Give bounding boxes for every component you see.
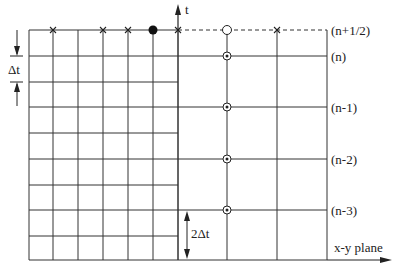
markers: [50, 26, 280, 215]
arrow-up-icon: [184, 211, 190, 221]
arrow-down-icon: [14, 46, 20, 56]
two-dt-indicator: 2Δt: [184, 211, 210, 259]
dt-indicator: Δt: [8, 30, 23, 106]
xy-axis-arrow-icon: [380, 257, 392, 263]
time-level-label: (n): [331, 49, 346, 64]
time-level-labels: (n+1/2)(n)(n-1)(n-2)(n-3): [331, 23, 370, 218]
circled-dot-icon: [223, 206, 231, 214]
circled-dot-icon: [223, 52, 231, 60]
time-level-label: (n-1): [331, 100, 357, 115]
xy-plane-label: x-y plane: [334, 240, 383, 255]
two-dt-label: 2Δt: [191, 226, 210, 241]
arrow-down-icon: [184, 249, 190, 259]
arrow-up-icon: [14, 82, 20, 92]
fine-grid: [29, 30, 178, 260]
xy-plane-axis: x-y plane: [327, 240, 392, 263]
time-level-label: (n+1/2): [331, 23, 370, 38]
t-axis-arrow-icon: [175, 4, 181, 15]
circled-dot-icon: [223, 155, 231, 163]
filled-dot-icon: [149, 26, 158, 35]
time-level-label: (n-2): [331, 152, 357, 167]
circled-dot-icon: [223, 103, 231, 111]
t-axis-label: t: [185, 2, 189, 17]
dt-label: Δt: [8, 62, 20, 77]
open-circle-icon: [223, 26, 232, 35]
t-axis: t: [175, 2, 189, 30]
time-level-label: (n-3): [331, 203, 357, 218]
time-stepping-grid-diagram: t x-y plane Δt 2Δt (n+1/2)(n)(n-1)(n-2)(…: [0, 0, 394, 271]
